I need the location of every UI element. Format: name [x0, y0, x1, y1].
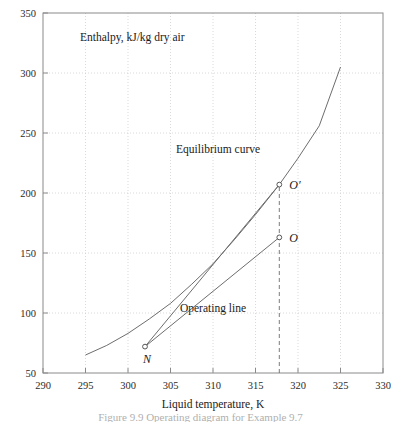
- x-tick-label: 305: [163, 380, 179, 391]
- x-tick-label: 295: [78, 380, 94, 391]
- point-label-O: O′: [289, 178, 301, 192]
- x-tick-label: 325: [333, 380, 349, 391]
- point-marker-O: [277, 182, 282, 187]
- x-axis-title: Liquid temperature, K: [162, 398, 265, 411]
- y-tick-label: 150: [20, 248, 36, 259]
- x-tick-label: 310: [205, 380, 221, 391]
- annotation-operating-line: Operating line: [180, 302, 246, 315]
- point-marker-N: [143, 344, 148, 349]
- point-marker-O: [277, 235, 282, 240]
- y-tick-label: 300: [20, 68, 36, 79]
- x-tick-label: 315: [248, 380, 264, 391]
- y-tick-label: 350: [20, 8, 36, 19]
- y-tick-label: 50: [26, 368, 37, 379]
- point-label-N: N: [142, 352, 152, 366]
- x-tick-label: 320: [290, 380, 306, 391]
- y-tick-label: 250: [20, 128, 36, 139]
- annotation-equilibrium-curve: Equilibrium curve: [176, 143, 260, 156]
- y-tick-label: 200: [20, 188, 36, 199]
- y-tick-label: 100: [20, 308, 36, 319]
- figure-caption: Figure 9.9 Operating diagram for Example…: [0, 411, 401, 422]
- x-tick-label: 290: [35, 380, 51, 391]
- x-tick-label: 300: [120, 380, 136, 391]
- figure-container: 5010015020025030035029029530030531031532…: [0, 0, 401, 422]
- x-tick-label: 330: [375, 380, 391, 391]
- point-label-O: O: [289, 231, 298, 245]
- enthalpy-vs-liquid-temperature-chart: 5010015020025030035029029530030531031532…: [0, 0, 401, 422]
- annotation-enthalpy-kj-kg-dry-air: Enthalpy, kJ/kg dry air: [80, 31, 185, 44]
